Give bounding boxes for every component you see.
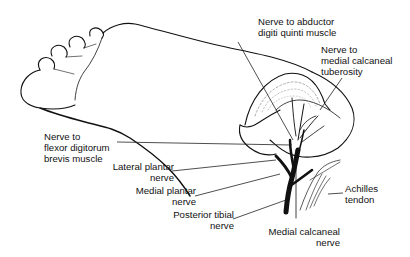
achilles-tendon xyxy=(300,160,340,210)
label-nerve-to-abductor-digiti-quinti: Nerve to abductor digiti quinti muscle xyxy=(258,16,336,38)
label-medial-plantar-nerve: Medial plantar nerve xyxy=(120,185,196,207)
leader-posterior-tibial xyxy=(233,200,286,219)
label-medial-calcaneal-nerve: Medial calcaneal nerve xyxy=(258,226,340,248)
leader-flexor xyxy=(117,142,292,145)
label-lateral-plantar-nerve: Lateral plantar nerve xyxy=(98,161,174,183)
label-nerve-to-medial-calcaneal-tuberosity: Nerve to medial calcaneal tuberosity xyxy=(321,44,392,77)
toe-3 xyxy=(51,45,67,57)
leader-achilles xyxy=(328,193,343,194)
label-achilles-tendon: Achilles tendon xyxy=(345,183,378,205)
leader-lateral xyxy=(172,160,276,171)
toe-4 xyxy=(69,36,85,48)
label-posterior-tibial-nerve: Posterior tibial nerve xyxy=(150,209,234,231)
big-toe xyxy=(21,70,75,109)
toe-2 xyxy=(39,58,55,70)
toe-5 xyxy=(90,28,104,38)
label-nerve-to-flexor-digitorum-brevis: Nerve to flexor digitorum brevis muscle xyxy=(44,131,110,164)
heel-outline xyxy=(270,72,354,157)
anatomy-diagram: Nerve to abductor digiti quinti muscle N… xyxy=(0,0,410,257)
leader-medial-plantar xyxy=(195,174,280,196)
